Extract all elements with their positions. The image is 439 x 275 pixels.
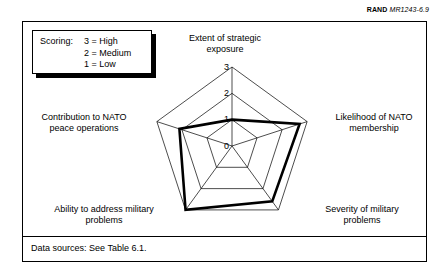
legend-title: Scoring: bbox=[40, 36, 84, 48]
source-credit: RAND MR1243-6.9 bbox=[367, 6, 429, 13]
legend-spacer bbox=[40, 59, 84, 71]
footer-divider bbox=[23, 236, 426, 237]
rand-logo-text: RAND bbox=[367, 6, 388, 13]
axis-label-line: Contribution to NATO bbox=[12, 112, 156, 123]
axis-label-likelihood-of-nato-membership: Likelihood of NATO membership bbox=[318, 112, 430, 134]
legend-row: 2 = Medium bbox=[40, 48, 151, 60]
axis-label-line: membership bbox=[318, 123, 430, 134]
figure-root: RAND MR1243-6.9 Scoring: 3 = High 2 = Me… bbox=[0, 0, 439, 275]
legend-value-medium: 2 = Medium bbox=[84, 48, 151, 60]
tick-label-0: 0 bbox=[215, 142, 229, 151]
legend-row: Scoring: 3 = High bbox=[40, 36, 151, 48]
tick-label-3: 3 bbox=[215, 63, 229, 72]
axis-label-line: Severity of military bbox=[300, 204, 424, 215]
tick-label-2: 2 bbox=[215, 89, 229, 98]
legend-value-low: 1 = Low bbox=[84, 59, 151, 71]
legend-row: 1 = Low bbox=[40, 59, 151, 71]
axis-label-line: exposure bbox=[155, 44, 295, 55]
axis-label-line: problems bbox=[34, 215, 174, 226]
figure-number: MR1243-6.9 bbox=[389, 6, 429, 13]
legend-value-high: 3 = High bbox=[84, 36, 151, 48]
scoring-legend-box: Scoring: 3 = High 2 = Medium 1 = Low bbox=[32, 30, 152, 74]
axis-label-line: Ability to address military bbox=[34, 204, 174, 215]
tick-label-1: 1 bbox=[215, 115, 229, 124]
axis-label-line: peace operations bbox=[12, 123, 156, 134]
legend-spacer bbox=[40, 48, 84, 60]
axis-label-ability-to-address-military-problems: Ability to address military problems bbox=[34, 204, 174, 226]
axis-label-contribution-to-nato-peace-operations: Contribution to NATO peace operations bbox=[12, 112, 156, 134]
axis-label-line: Likelihood of NATO bbox=[318, 112, 430, 123]
axis-label-severity-of-military-problems: Severity of military problems bbox=[300, 204, 424, 226]
axis-label-line: problems bbox=[300, 215, 424, 226]
axis-label-line: Extent of strategic bbox=[155, 33, 295, 44]
axis-label-extent-of-strategic-exposure: Extent of strategic exposure bbox=[155, 33, 295, 55]
data-sources-note: Data sources: See Table 6.1. bbox=[31, 243, 146, 253]
